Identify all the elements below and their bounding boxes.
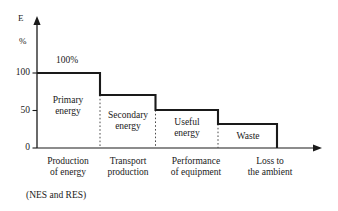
step-label-primary-energy: Primary energy bbox=[53, 95, 84, 116]
y-axis-unit-label: % bbox=[19, 36, 27, 46]
step-label-useful-energy-line2: energy bbox=[174, 128, 200, 138]
category-label-performance-of-equipment-line1: Performance bbox=[172, 156, 221, 166]
category-label-loss-to-the-ambient-line2: the ambient bbox=[248, 167, 293, 177]
y-tick-label-50: 50 bbox=[21, 105, 31, 116]
step-label-secondary-energy-line1: Secondary bbox=[108, 110, 148, 120]
category-label-production-of-energy-line2: of energy bbox=[50, 167, 86, 177]
step-label-secondary-energy-line2: energy bbox=[115, 121, 141, 131]
step-label-waste: Waste bbox=[237, 131, 260, 142]
category-label-transport-production-line2: production bbox=[107, 167, 148, 177]
y-axis-label: E bbox=[18, 13, 24, 23]
step-label-useful-energy-line1: Useful bbox=[174, 117, 199, 127]
figure-footnote: (NES and RES) bbox=[26, 190, 86, 201]
category-label-performance-of-equipment-line2: of equipment bbox=[171, 167, 221, 177]
x-axis-arrow bbox=[313, 145, 322, 152]
step-label-useful-energy: Useful energy bbox=[174, 117, 200, 138]
energy-cascade-figure: E % 100 50 0 100% Primary energy Seconda… bbox=[0, 0, 338, 211]
step-label-primary-energy-line2: energy bbox=[55, 106, 81, 116]
y-axis-arrow bbox=[33, 16, 40, 25]
y-tick-label-100: 100 bbox=[16, 67, 30, 78]
category-label-production-of-energy: Production of energy bbox=[47, 156, 89, 177]
step-label-secondary-energy: Secondary energy bbox=[108, 110, 148, 131]
y-tick-label-0: 0 bbox=[25, 142, 30, 153]
chart-canvas bbox=[0, 0, 338, 211]
category-label-loss-to-the-ambient: Loss to the ambient bbox=[248, 156, 293, 177]
category-label-transport-production-line1: Transport bbox=[110, 156, 147, 166]
category-label-production-of-energy-line1: Production bbox=[47, 156, 89, 166]
category-label-transport-production: Transport production bbox=[107, 156, 148, 177]
value-callout-100-percent: 100% bbox=[56, 55, 78, 66]
step-label-primary-energy-line1: Primary bbox=[53, 95, 84, 105]
category-label-performance-of-equipment: Performance of equipment bbox=[171, 156, 221, 177]
category-label-loss-to-the-ambient-line1: Loss to bbox=[256, 156, 284, 166]
